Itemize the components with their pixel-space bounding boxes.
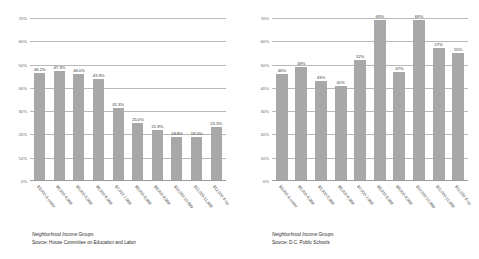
- bar-series-left: 46.2%47.3%46.0%43.9%31.3%25.0%21.8%18.8%…: [30, 18, 226, 181]
- bar-value-label: 23.3%: [210, 121, 222, 126]
- bar-value-label: 69%: [415, 14, 423, 19]
- bar-cell: 18.8%: [167, 18, 187, 181]
- bar[interactable]: 69%: [413, 20, 425, 181]
- bar-value-label: 49%: [297, 61, 305, 66]
- y-tick-label: 70%: [19, 16, 28, 21]
- bar-value-label: 25.0%: [132, 117, 144, 122]
- bar-cell: 19.0%: [187, 18, 207, 181]
- y-tick-label: 0%: [263, 179, 269, 184]
- bar-cell: 46.0%: [69, 18, 89, 181]
- caption-right: Neighborhood Income Groups Source: D.C. …: [272, 231, 472, 247]
- bar[interactable]: 23.3%: [211, 127, 222, 181]
- x-label-cell: $10,000-10,999: [167, 182, 187, 230]
- chart-panel-left: 0%10%20%30%40%50%60%70% 46.2%47.3%46.0%4…: [0, 0, 239, 259]
- plot-area-right: 46%49%43%41%52%69%47%69%57%55%: [272, 18, 468, 181]
- bar-cell: 21.8%: [148, 18, 168, 181]
- bar[interactable]: 46.0%: [73, 74, 84, 181]
- y-tick-label: 60%: [261, 39, 270, 44]
- bar-value-label: 46%: [278, 68, 286, 73]
- bar-value-label: 21.8%: [152, 124, 164, 129]
- x-label-cell: $8,000-8,999: [128, 182, 148, 230]
- bar[interactable]: 43.9%: [93, 79, 104, 181]
- bar-value-label: 46.0%: [73, 68, 85, 73]
- y-tick-label: 0%: [21, 179, 27, 184]
- bar[interactable]: 55%: [452, 53, 464, 181]
- bar[interactable]: 47.3%: [54, 71, 65, 181]
- bar-value-label: 47%: [395, 66, 403, 71]
- y-tick-label: 40%: [261, 85, 270, 90]
- bar-value-label: 47.3%: [54, 65, 66, 70]
- x-label-cell: $7,000-7,999: [350, 182, 370, 230]
- x-label-cell: $10,000-10,999: [409, 182, 429, 230]
- bar[interactable]: 41%: [335, 86, 347, 181]
- x-label-cell: $11,000-11,999: [429, 182, 449, 230]
- x-label-cell: $5,000-5,999: [311, 182, 331, 230]
- bar[interactable]: 21.8%: [152, 130, 163, 181]
- x-label-cell: $5,000-5,999: [69, 182, 89, 230]
- y-tick-label: 40%: [19, 85, 28, 90]
- bar-value-label: 31.3%: [112, 102, 124, 107]
- bar[interactable]: 57%: [433, 48, 445, 181]
- x-label-cell: $6,000-6,999: [331, 182, 351, 230]
- bar-value-label: 18.8%: [171, 131, 183, 136]
- y-tick-label: 30%: [19, 109, 28, 114]
- y-tick-label: 60%: [19, 39, 28, 44]
- caption-left: Neighborhood Income Groups Source: House…: [32, 231, 232, 247]
- x-label-cell: $12,000 & up: [206, 182, 226, 230]
- bar-value-label: 19.0%: [191, 131, 203, 136]
- x-axis-labels-right: $3,000 & under$4,000-4,999$5,000-5,999$6…: [272, 182, 468, 230]
- bar-cell: 47%: [390, 18, 410, 181]
- caption-source-left: Source: House Committee on Education and…: [32, 239, 232, 247]
- y-tick-label: 50%: [261, 62, 270, 67]
- bar-value-label: 69%: [376, 14, 384, 19]
- bar[interactable]: 46%: [276, 74, 288, 181]
- bar[interactable]: 43%: [315, 81, 327, 181]
- x-label-cell: $11,000-11,999: [187, 182, 207, 230]
- bar-cell: 69%: [409, 18, 429, 181]
- x-label-cell: $6,000-6,999: [89, 182, 109, 230]
- bar[interactable]: 19.0%: [191, 137, 202, 181]
- x-label-cell: $3,000 & under: [30, 182, 50, 230]
- dual-bar-chart-figure: 0%10%20%30%40%50%60%70% 46.2%47.3%46.0%4…: [0, 0, 479, 259]
- bar-cell: 57%: [429, 18, 449, 181]
- bar[interactable]: 49%: [295, 67, 307, 181]
- caption-source-right: Source: D.C. Public Schools: [272, 239, 472, 247]
- bar-cell: 25.0%: [128, 18, 148, 181]
- x-label-cell: $3,000 & under: [272, 182, 292, 230]
- x-label-cell: $12,000 & up: [448, 182, 468, 230]
- bar[interactable]: 31.3%: [113, 108, 124, 181]
- bar-cell: 46%: [272, 18, 292, 181]
- bar-value-label: 57%: [434, 42, 442, 47]
- x-label-cell: $4,000-4,999: [292, 182, 312, 230]
- bar-cell: 41%: [331, 18, 351, 181]
- x-label-cell: $9,000-9,999: [390, 182, 410, 230]
- bar-cell: 43.9%: [89, 18, 109, 181]
- bar-cell: 23.3%: [206, 18, 226, 181]
- x-axis-line-left: [30, 180, 226, 181]
- y-axis-labels-left: 0%10%20%30%40%50%60%70%: [0, 18, 30, 181]
- y-tick-label: 70%: [261, 16, 270, 21]
- y-axis-labels-right: 0%10%20%30%40%50%60%70%: [240, 18, 272, 181]
- x-label-cell: $8,000-8,999: [370, 182, 390, 230]
- bar-cell: 43%: [311, 18, 331, 181]
- bar-cell: 55%: [448, 18, 468, 181]
- bar[interactable]: 18.8%: [171, 137, 182, 181]
- bar-value-label: 43%: [317, 75, 325, 80]
- bar-series-right: 46%49%43%41%52%69%47%69%57%55%: [272, 18, 468, 181]
- bar[interactable]: 69%: [374, 20, 386, 181]
- x-tick-label: $12,000 & up: [454, 184, 473, 206]
- y-tick-label: 10%: [261, 155, 270, 160]
- chart-panel-right: 0%10%20%30%40%50%60%70% 46%49%43%41%52%6…: [240, 0, 479, 259]
- bar[interactable]: 25.0%: [132, 123, 143, 181]
- x-label-cell: $7,000-7,999: [108, 182, 128, 230]
- bar[interactable]: 46.2%: [34, 73, 45, 181]
- bar[interactable]: 47%: [393, 72, 405, 181]
- y-tick-label: 50%: [19, 62, 28, 67]
- bar-cell: 46.2%: [30, 18, 50, 181]
- x-label-cell: $9,000-9,999: [148, 182, 168, 230]
- bar-cell: 47.3%: [50, 18, 70, 181]
- x-axis-labels-left: $3,000 & under$4,000-4,999$5,000-5,999$6…: [30, 182, 226, 230]
- bar-value-label: 41%: [336, 80, 344, 85]
- bar[interactable]: 52%: [354, 60, 366, 181]
- caption-title-right: Neighborhood Income Groups: [272, 231, 472, 239]
